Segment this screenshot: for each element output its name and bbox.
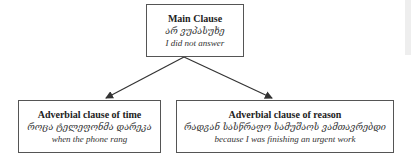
reason-clause-box: Adverbial clause of reason რადგან სასწრა… [176,100,394,153]
reason-clause-georgian: რადგან სასწრაფო სამუშაოს ვამთავრებდი [184,122,386,132]
arrow-to-time-clause [106,57,184,98]
main-clause-title: Main Clause [168,13,222,25]
arrow-to-reason-clause [184,57,272,98]
time-clause-georgian: როცა ტელეფონმა დარეკა [27,122,151,132]
time-clause-title: Adverbial clause of time [38,109,142,121]
main-clause-georgian: არ ვუპასუხე [165,26,224,36]
main-clause-box: Main Clause არ ვუპასუხე I did not answer [146,4,244,57]
time-clause-english: when the phone rang [52,134,128,144]
main-clause-english: I did not answer [166,38,225,48]
reason-clause-title: Adverbial clause of reason [229,109,342,121]
clause-diagram: Main Clause არ ვუპასუხე I did not answer… [0,0,413,160]
reason-clause-english: because I was finishing an urgent work [214,134,355,144]
time-clause-box: Adverbial clause of time როცა ტელეფონმა … [18,100,161,153]
